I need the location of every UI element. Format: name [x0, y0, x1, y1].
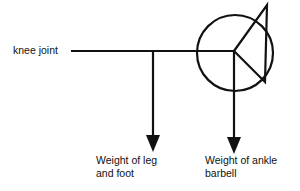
leg-weight-label-line1: Weight of leg: [96, 154, 157, 167]
ankle-barbell-label-line1: Weight of ankle: [205, 154, 277, 167]
ankle-barbell-label-line2: barbell: [205, 167, 277, 180]
foot-triangle: [234, 5, 267, 82]
knee-joint-label: knee joint: [13, 44, 58, 57]
leg-weight-arrow-head: [146, 135, 160, 152]
leg-weight-label: Weight of leg and foot: [96, 154, 157, 180]
ankle-barbell-label: Weight of ankle barbell: [205, 154, 277, 180]
barbell-weight-arrow-head: [227, 137, 241, 154]
leg-weight-label-line2: and foot: [96, 167, 157, 180]
